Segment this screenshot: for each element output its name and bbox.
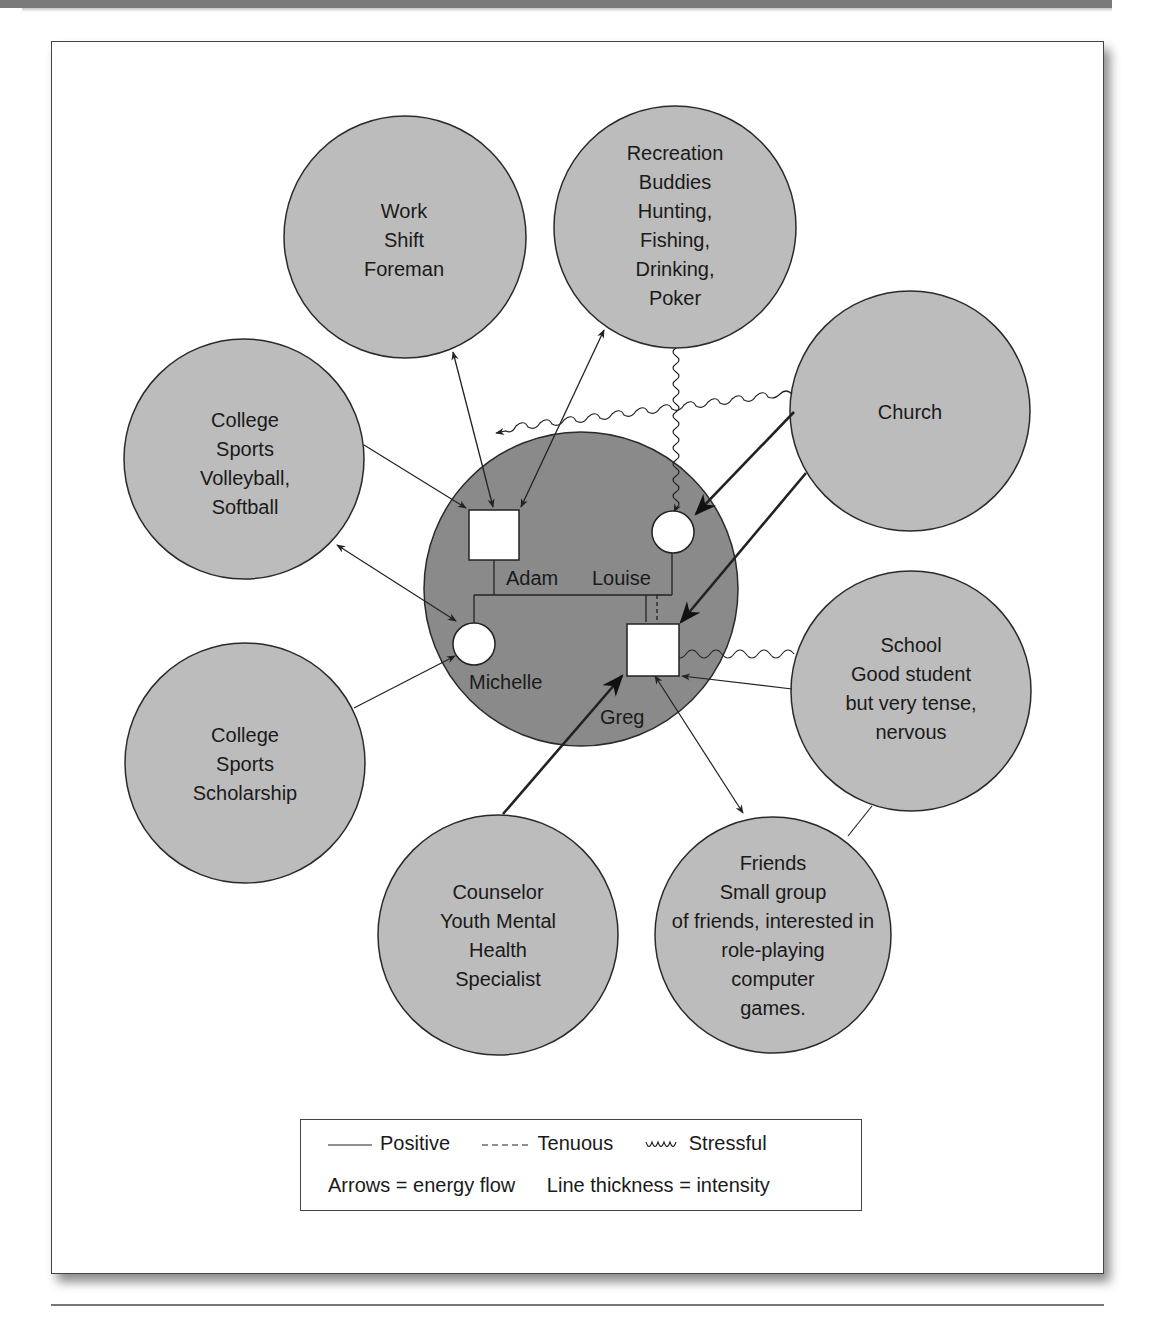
legend-positive: Positive bbox=[328, 1132, 450, 1155]
member-louise-circle[interactable] bbox=[652, 511, 694, 553]
line-church-adam-stressful bbox=[496, 391, 792, 433]
svg-text:Drinking,: Drinking, bbox=[636, 258, 715, 280]
family-circle bbox=[424, 432, 738, 746]
line-collegevb-adam bbox=[364, 445, 466, 508]
svg-text:Fishing,: Fishing, bbox=[640, 229, 710, 251]
legend-thickness-note: Line thickness = intensity bbox=[547, 1174, 770, 1197]
svg-text:Church: Church bbox=[878, 401, 942, 423]
member-greg-square[interactable] bbox=[627, 624, 679, 676]
svg-text:College: College bbox=[211, 724, 279, 746]
svg-text:nervous: nervous bbox=[875, 721, 946, 743]
svg-text:Sports: Sports bbox=[216, 753, 274, 775]
svg-text:Health: Health bbox=[469, 939, 527, 961]
member-label-adam: Adam bbox=[506, 567, 558, 589]
svg-text:Counselor: Counselor bbox=[452, 881, 544, 903]
svg-text:Scholarship: Scholarship bbox=[193, 782, 298, 804]
line-school-friends bbox=[848, 806, 872, 836]
svg-text:computer: computer bbox=[731, 968, 815, 990]
svg-text:Good student: Good student bbox=[851, 663, 972, 685]
svg-text:Recreation: Recreation bbox=[627, 142, 724, 164]
svg-text:School: School bbox=[880, 634, 941, 656]
svg-text:Friends: Friends bbox=[740, 852, 807, 874]
member-michelle-circle[interactable] bbox=[453, 623, 495, 665]
svg-text:Poker: Poker bbox=[649, 287, 702, 309]
svg-text:Shift: Shift bbox=[384, 229, 424, 251]
svg-text:Volleyball,: Volleyball, bbox=[200, 467, 290, 489]
legend: Positive Tenuous Stressful Arrows = ener… bbox=[300, 1119, 862, 1211]
positive-line-icon bbox=[328, 1140, 372, 1150]
system-counselor-circle[interactable] bbox=[378, 815, 618, 1055]
legend-row-line-types: Positive Tenuous Stressful bbox=[328, 1132, 767, 1155]
svg-text:Foreman: Foreman bbox=[364, 258, 444, 280]
svg-text:College: College bbox=[211, 409, 279, 431]
legend-arrows-note: Arrows = energy flow bbox=[328, 1174, 515, 1197]
legend-row-notes: Arrows = energy flow Line thickness = in… bbox=[328, 1174, 770, 1197]
svg-text:Hunting,: Hunting, bbox=[638, 200, 713, 222]
line-collegesch-michelle bbox=[354, 656, 455, 708]
tenuous-line-icon bbox=[482, 1140, 530, 1150]
svg-text:Small group: Small group bbox=[720, 881, 827, 903]
line-church-louise bbox=[696, 412, 794, 514]
svg-text:Softball: Softball bbox=[212, 496, 279, 518]
member-label-louise: Louise bbox=[592, 567, 651, 589]
member-adam-square[interactable] bbox=[469, 510, 519, 560]
svg-text:Specialist: Specialist bbox=[455, 968, 541, 990]
legend-tenuous: Tenuous bbox=[482, 1132, 614, 1155]
legend-stressful: Stressful bbox=[645, 1132, 767, 1155]
svg-text:Work: Work bbox=[381, 200, 428, 222]
svg-text:of friends, interested in: of friends, interested in bbox=[672, 910, 874, 932]
system-school-circle[interactable] bbox=[791, 571, 1031, 811]
member-label-greg: Greg bbox=[600, 706, 644, 728]
stressful-wavy-icon bbox=[645, 1139, 681, 1151]
svg-text:Buddies: Buddies bbox=[639, 171, 711, 193]
system-label-church: Church bbox=[878, 401, 942, 423]
svg-text:Sports: Sports bbox=[216, 438, 274, 460]
svg-text:but very tense,: but very tense, bbox=[845, 692, 976, 714]
svg-text:Youth Mental: Youth Mental bbox=[440, 910, 556, 932]
member-label-michelle: Michelle bbox=[469, 671, 542, 693]
line-friends-greg bbox=[655, 676, 743, 813]
svg-text:role-playing: role-playing bbox=[721, 939, 824, 961]
svg-text:games.: games. bbox=[740, 997, 806, 1019]
